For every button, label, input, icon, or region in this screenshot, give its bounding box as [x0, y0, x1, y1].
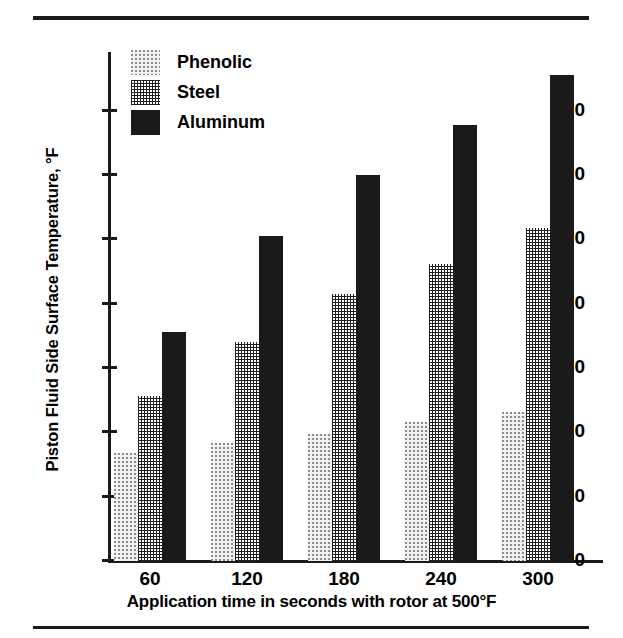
legend-item-phenolic: Phenolic	[131, 47, 361, 77]
legend-label-phenolic: Phenolic	[177, 52, 252, 73]
legend-label-steel: Steel	[177, 82, 220, 103]
y-axis-line	[108, 52, 111, 563]
bar-aluminum-60	[162, 332, 186, 561]
bar-steel-240	[429, 264, 453, 561]
bar-phenolic-240	[405, 422, 429, 561]
aluminum-swatch-icon	[131, 110, 160, 135]
y-axis-title: Piston Fluid Side Surface Temperature, °…	[43, 75, 62, 545]
y-tick-200	[102, 302, 117, 305]
bar-phenolic-300	[502, 412, 526, 561]
legend-item-aluminum: Aluminum	[131, 107, 361, 137]
bar-aluminum-120	[259, 236, 283, 561]
chart-legend: Phenolic Steel Aluminum	[131, 47, 361, 137]
bar-steel-300	[526, 228, 550, 561]
legend-item-steel: Steel	[131, 77, 361, 107]
x-axis-title: Application time in seconds with rotor a…	[0, 592, 623, 612]
steel-swatch-icon	[131, 80, 160, 105]
bar-aluminum-300	[550, 75, 574, 561]
bar-aluminum-240	[453, 125, 477, 561]
bar-steel-180	[332, 294, 356, 562]
bar-phenolic-120	[211, 443, 235, 561]
x-tick-label-120: 120	[202, 568, 292, 590]
y-tick-350	[102, 109, 117, 112]
x-tick-label-60: 60	[105, 568, 195, 590]
x-tick-label-180: 180	[299, 568, 389, 590]
bar-phenolic-180	[308, 434, 332, 561]
bar-chart-figure: Piston Fluid Side Surface Temperature, °…	[0, 0, 623, 638]
y-tick-300	[102, 173, 117, 176]
bar-steel-60	[138, 396, 162, 561]
bar-steel-120	[235, 342, 259, 561]
phenolic-swatch-icon	[131, 50, 160, 75]
legend-label-aluminum: Aluminum	[177, 112, 265, 133]
y-tick-150	[102, 366, 117, 369]
y-tick-100	[102, 430, 117, 433]
x-tick-label-240: 240	[396, 568, 486, 590]
x-tick-label-300: 300	[493, 568, 583, 590]
bar-aluminum-180	[356, 175, 380, 561]
y-tick-250	[102, 237, 117, 240]
bar-phenolic-60	[114, 453, 138, 561]
